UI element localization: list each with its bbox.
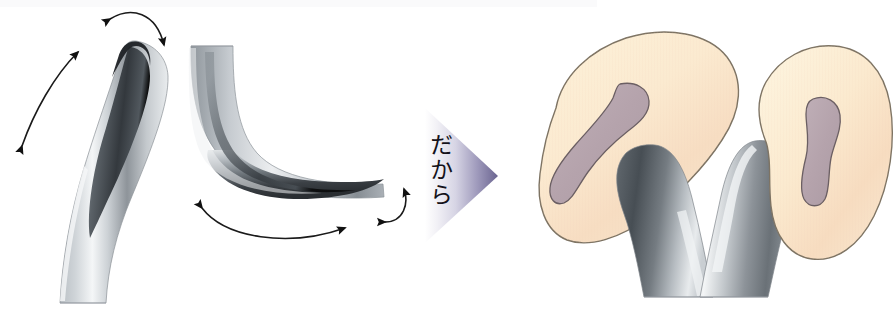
kidney-pair-group xyxy=(539,32,892,297)
rotation-arrow-bottom-arc xyxy=(202,208,345,238)
upright-curved-tube-group xyxy=(22,13,168,303)
therefore-label: だから xyxy=(428,133,451,208)
rotation-arrow-tip-arc xyxy=(110,13,164,45)
bent-curved-tube-group xyxy=(189,46,406,238)
rotation-arrow-left-arc xyxy=(22,52,78,146)
rotation-arrow-right-arc xyxy=(385,189,406,222)
figure-canvas: だから xyxy=(0,0,895,325)
